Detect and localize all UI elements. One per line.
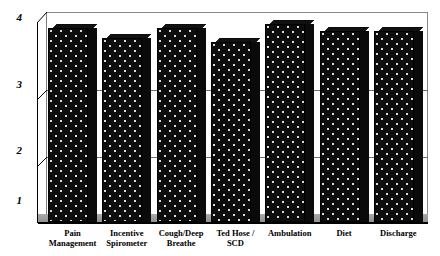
gridline-3-connector [37,90,47,100]
y-tick-label-1: 1 [0,195,22,206]
bar-5 [320,22,369,222]
y-axis-back-wall [46,12,47,214]
y-tick-label-4: 4 [0,12,22,23]
chart-baseline [38,222,428,224]
bar-front-face [374,31,414,222]
bar-top-face [102,29,151,38]
x-label-line-2: SCD [203,238,268,248]
bar-0 [48,19,97,222]
bar-side-face [88,28,97,222]
y-tick-label-3: 3 [0,79,22,90]
bar-1 [102,29,151,222]
bar-front-face [265,24,305,222]
bar-4 [265,15,314,222]
bar-top-face [320,22,369,31]
bar-top-face [48,19,97,28]
gridline-2-connector [37,157,47,167]
plot-right-border [427,12,428,214]
bar-front-face [211,42,251,222]
bar-2 [157,19,206,222]
x-label-6: Discharge [366,228,431,238]
bar-side-face [142,38,151,222]
bar-chart: 1 2 3 4 PainManagementIncentiveSpiromete… [0,0,440,256]
y-axis-top-connector [37,12,47,23]
y-axis-line [37,22,38,223]
bar-front-face [48,28,88,222]
bar-front-face [157,28,197,222]
bar-front-face [102,38,142,222]
bar-3 [211,33,260,222]
y-tick-label-2: 2 [0,145,22,156]
bar-top-face [211,33,260,42]
bar-top-face [374,22,423,31]
bar-side-face [305,24,314,222]
bar-front-face [320,31,360,222]
bar-side-face [197,28,206,222]
plot-top-border [46,12,428,13]
bar-top-face [265,15,314,24]
x-label-line-1: Discharge [366,228,431,238]
bar-side-face [414,31,423,222]
bar-6 [374,22,423,222]
bar-side-face [251,42,260,222]
bar-side-face [360,31,369,222]
bar-top-face [157,19,206,28]
